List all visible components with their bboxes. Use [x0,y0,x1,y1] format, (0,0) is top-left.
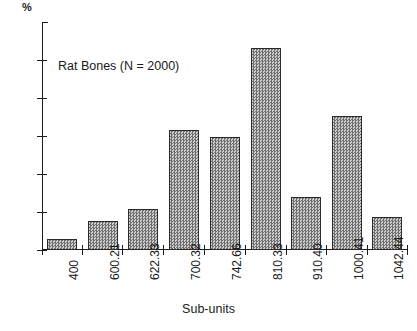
x-tick-0 [42,245,43,255]
x-tick-label-622-33: 622.33 [149,243,161,280]
x-tick-label-600-21: 600.21 [109,243,121,280]
bar-810-33 [251,48,281,250]
bar-400 [47,239,77,250]
x-axis-title: Sub-units [0,302,417,316]
x-tick-6 [286,245,287,255]
x-tick-label-1042-44: 1042.44 [393,237,405,280]
y-axis-unit-label: % [22,2,32,13]
x-tick-2 [122,245,123,255]
x-tick-7 [326,245,327,255]
bar-1000-41 [332,116,362,251]
x-tick-4 [204,245,205,255]
x-tick-5 [245,245,246,255]
x-tick-label-400: 400 [68,260,80,280]
plot-area: 30 25 20 15 10 5 0 400 600.21 622.33 700… [42,22,408,250]
chart-annotation: Rat Bones (N = 2000) [58,59,179,73]
chart-figure: % 30 25 20 15 10 5 0 [0,0,417,331]
y-tick-20 [37,98,47,99]
y-tick-30 [42,22,48,23]
y-tick-25 [37,60,47,61]
x-tick-1 [82,245,83,255]
y-tick-5 [37,212,47,213]
x-tick-label-700-32: 700.32 [190,243,202,280]
x-tick-label-1000-41: 1000.41 [353,237,365,280]
y-tick-10 [37,174,47,175]
bar-742-66 [210,137,240,250]
x-tick-label-810-33: 810.33 [272,243,284,280]
x-tick-8 [367,245,368,255]
bar-700-32 [169,130,199,250]
x-tick-label-910-40: 910.40 [312,243,324,280]
x-tick-9 [407,245,408,255]
x-tick-3 [163,245,164,255]
x-tick-label-742-66: 742.66 [231,243,243,280]
y-tick-15 [37,136,47,137]
